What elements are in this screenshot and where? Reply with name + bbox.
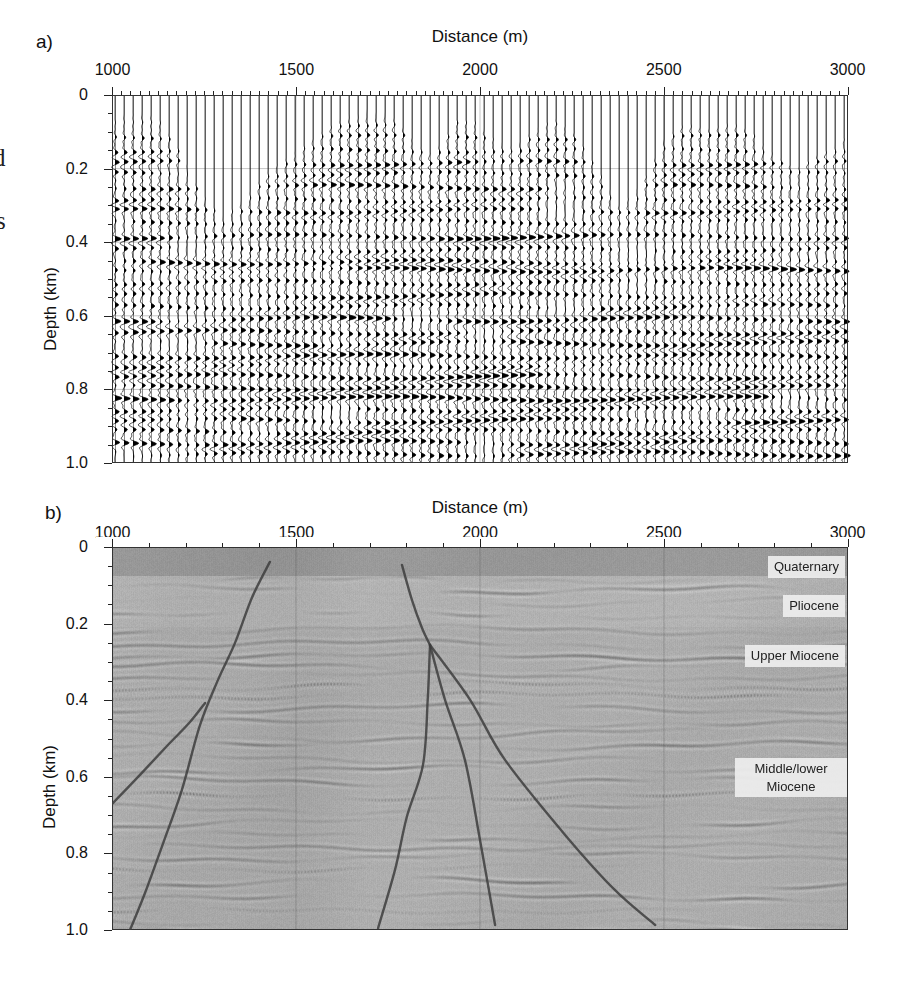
central-branch-3-line — [430, 645, 655, 925]
central-fault-stem-line — [402, 565, 430, 645]
fault-lines-overlay — [112, 547, 848, 930]
y-tick-label: 0 — [79, 86, 88, 104]
strat-label-upper-miocene: Upper Miocene — [745, 645, 845, 667]
x-tick-label: 3000 — [830, 61, 866, 79]
y-tick-label: 0 — [79, 538, 88, 556]
panel-b-y-axis-title: Depth (km) — [40, 687, 60, 887]
y-tick-label: 0.8 — [66, 380, 88, 398]
margin-text-fragment-2: s — [0, 207, 6, 235]
panel-b-label: b) — [45, 502, 62, 524]
y-tick-label: 0.8 — [66, 844, 88, 862]
panel-a-label: a) — [36, 31, 53, 53]
strat-label-middle-lower-miocene: Middle/lower Miocene — [735, 758, 847, 797]
panel-a-x-tick-labels: 10001500200025003000 — [112, 61, 848, 81]
y-tick-label: 1.0 — [66, 454, 88, 472]
panel-a-y-axis-title: Depth (km) — [41, 209, 61, 409]
strat-label-pliocene: Pliocene — [783, 595, 845, 617]
y-tick-label: 0.6 — [66, 307, 88, 325]
panel-a-x-axis-title: Distance (m) — [112, 27, 848, 47]
y-tick-label: 1.0 — [66, 921, 88, 939]
y-tick-label: 0.6 — [66, 768, 88, 786]
y-tick-label: 0.4 — [66, 233, 88, 251]
x-tick-label: 2500 — [646, 61, 682, 79]
margin-text-fragment-1: d — [0, 144, 6, 172]
panel-b-overlay: Quaternary Pliocene Upper Miocene Middle… — [112, 547, 848, 930]
central-branch-1-line — [378, 645, 430, 928]
y-tick-label: 0.4 — [66, 691, 88, 709]
x-tick-label: 1000 — [95, 61, 131, 79]
x-tick-label: 2000 — [462, 61, 498, 79]
panel-a-seismic-wiggle-canvas — [96, 85, 856, 469]
left-main-fault-line — [130, 562, 270, 930]
y-tick-label: 0.2 — [66, 615, 88, 633]
strat-label-quaternary: Quaternary — [768, 556, 845, 578]
panel-b-x-axis-title: Distance (m) — [112, 498, 848, 518]
x-tick-label: 1500 — [278, 61, 314, 79]
y-tick-label: 0.2 — [66, 160, 88, 178]
